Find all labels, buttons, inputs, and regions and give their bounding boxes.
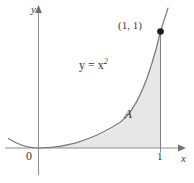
curve-equation-label: y = x2 bbox=[79, 58, 108, 71]
x-axis-arrowhead bbox=[178, 145, 186, 152]
y-axis-label: y bbox=[31, 4, 36, 15]
point-marker-1-1 bbox=[157, 28, 164, 35]
y-axis-arrowhead bbox=[35, 5, 42, 13]
point-coordinate-label: (1, 1) bbox=[118, 20, 142, 31]
area-region-label: A bbox=[124, 107, 132, 120]
origin-label: 0 bbox=[26, 150, 32, 162]
curve-equation-base: y = x bbox=[79, 58, 104, 72]
x-axis-label: x bbox=[181, 153, 186, 164]
x-tick-label-one: 1 bbox=[157, 151, 163, 162]
curve-equation-exponent: 2 bbox=[104, 57, 108, 66]
figure-container: y x 0 1 (1, 1) y = x2 A bbox=[0, 0, 194, 183]
